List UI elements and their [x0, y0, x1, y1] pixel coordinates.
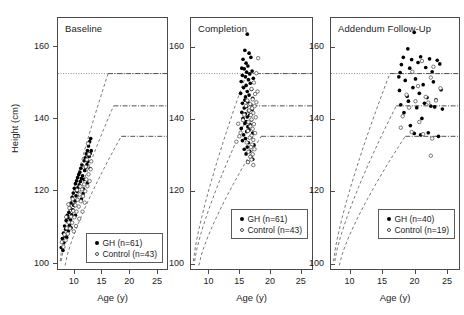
legend-label: Control (n=43)	[102, 249, 157, 259]
legend: GH (n=61)Control (n=43)	[86, 233, 163, 263]
x-tick-mark	[270, 270, 271, 274]
data-point-control	[89, 168, 92, 171]
data-point-gh	[249, 56, 253, 60]
data-point-control	[85, 158, 88, 161]
data-point-control	[82, 183, 85, 186]
plot-area	[58, 18, 167, 269]
panel-title: Baseline	[65, 23, 102, 34]
data-point-gh	[242, 147, 246, 151]
data-point-gh	[417, 91, 421, 95]
data-point-control	[246, 129, 249, 132]
data-point-control	[251, 98, 254, 101]
y-tick-label: 140	[34, 113, 49, 123]
x-tick-label: 15	[96, 276, 106, 286]
legend-label: GH (n=61)	[247, 214, 287, 224]
data-point-control	[81, 210, 84, 213]
data-point-control	[250, 87, 253, 90]
data-point-gh	[420, 117, 424, 121]
data-point-control	[241, 118, 244, 121]
data-point-control	[256, 56, 259, 59]
x-tick-mark	[350, 270, 351, 274]
data-point-control	[88, 179, 91, 182]
data-point-control	[90, 160, 93, 163]
legend-item: Control (n=19)	[383, 224, 449, 235]
growth-chart-figure: Height (cm) 100120140160 BaselineGH (n=6…	[0, 0, 464, 315]
y-tick-label: 120	[306, 185, 324, 195]
legend-label: Control (n=19)	[394, 225, 449, 235]
data-point-control	[73, 216, 76, 219]
data-point-control	[430, 137, 433, 140]
data-point-control	[411, 70, 414, 73]
filled-circle-icon	[383, 217, 394, 221]
data-point-gh	[433, 105, 437, 109]
data-point-control	[75, 188, 78, 191]
data-point-control	[439, 87, 442, 90]
data-point-control	[399, 126, 402, 129]
data-point-gh	[432, 80, 436, 84]
data-point-control	[407, 106, 410, 109]
data-point-control	[250, 118, 253, 121]
x-tick-mark	[301, 270, 302, 274]
data-point-control	[63, 233, 66, 236]
data-point-gh	[407, 99, 411, 103]
x-tick-mark	[447, 270, 448, 274]
data-point-control	[434, 99, 437, 102]
data-point-gh	[86, 149, 90, 153]
filled-circle-icon	[91, 241, 102, 245]
data-point-control	[66, 232, 69, 235]
data-point-control	[252, 122, 255, 125]
y-tick-label: 120	[34, 185, 49, 195]
data-point-gh	[400, 63, 404, 67]
data-point-gh	[426, 131, 430, 135]
data-point-gh	[402, 111, 406, 115]
data-point-gh	[89, 149, 93, 153]
data-point-control	[75, 210, 78, 213]
data-point-gh	[241, 102, 245, 106]
data-point-control	[410, 130, 413, 133]
data-point-control	[78, 193, 81, 196]
data-point-control	[79, 199, 82, 202]
legend-item: Control (n=43)	[91, 248, 157, 259]
x-tick-label: 25	[152, 276, 162, 286]
data-point-control	[420, 59, 423, 62]
y-tick-mark	[191, 264, 195, 265]
y-tick-mark	[331, 47, 335, 48]
data-point-gh	[409, 124, 413, 128]
data-point-gh	[428, 57, 432, 61]
x-axis: 10152025Age (y)	[57, 270, 168, 312]
x-tick-label: 25	[296, 276, 306, 286]
data-point-control	[429, 76, 432, 79]
data-point-gh	[71, 191, 75, 195]
data-point-control	[252, 163, 255, 166]
x-tick-label: 20	[265, 276, 275, 286]
data-point-gh	[243, 48, 247, 52]
data-point-control	[429, 154, 432, 157]
y-tick-mark	[191, 119, 195, 120]
x-tick-mark	[74, 270, 75, 274]
y-tick-label: 120	[166, 185, 184, 195]
x-tick-mark	[415, 270, 416, 274]
data-point-gh	[248, 72, 252, 76]
data-point-control	[86, 142, 89, 145]
data-point-gh	[411, 86, 415, 90]
x-tick-mark	[101, 270, 102, 274]
data-point-control	[244, 104, 247, 107]
data-point-gh	[408, 66, 412, 70]
y-tick-label: 140	[166, 113, 184, 123]
data-point-control	[245, 141, 248, 144]
reference-curve	[339, 136, 405, 265]
data-point-gh	[248, 81, 252, 85]
data-point-gh	[430, 70, 434, 74]
data-point-gh	[441, 107, 445, 111]
data-point-control	[246, 160, 249, 163]
legend-item: Control (n=43)	[236, 224, 302, 235]
data-point-control	[67, 221, 70, 224]
data-point-control	[249, 145, 252, 148]
data-point-gh	[247, 93, 251, 97]
data-point-gh	[244, 75, 248, 79]
data-point-gh	[423, 102, 427, 106]
x-axis-label: Age (y)	[190, 292, 313, 303]
data-point-gh	[398, 89, 402, 93]
data-point-control	[81, 194, 84, 197]
data-point-gh	[246, 64, 250, 68]
